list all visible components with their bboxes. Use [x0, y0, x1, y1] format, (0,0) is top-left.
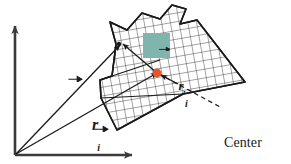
center-of-mass-figure: r i R r ′i Center of Mass — [0, 0, 291, 164]
vector-label-r-i-prime: r ′i — [146, 35, 188, 124]
r-i-prime-subscript: i — [185, 98, 188, 109]
vector-label-r-i-prime-symbol: r — [159, 50, 184, 108]
particle-point-marker — [117, 42, 121, 46]
vector-arrow-accent — [67, 75, 85, 82]
r-i-prime-glyph: r — [179, 78, 184, 93]
vector-label-R: R — [78, 112, 129, 164]
center-of-mass-caption: Center of Mass — [224, 104, 269, 164]
vector-label-R-symbol: R — [94, 130, 129, 164]
vector-arrow-accent — [158, 46, 173, 51]
center-of-mass-caption-line1: Center — [224, 135, 269, 151]
vector-arrow-accent — [93, 125, 111, 132]
